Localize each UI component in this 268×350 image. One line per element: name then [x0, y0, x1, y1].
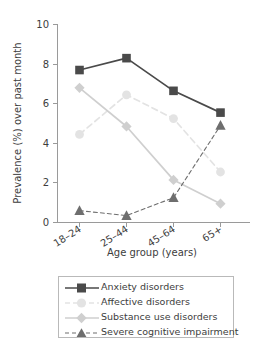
plot-area-wrapper: 10 8 6 4 2 0 18–24 25–44 45–64 65+ Preva…	[0, 0, 268, 262]
y-tick-label-0: 0	[43, 217, 49, 228]
legend-key-affective-circle-icon	[63, 295, 101, 309]
series-severe-cognitive-impairment	[74, 120, 225, 220]
legend-label-cognitive: Severe cognitive impairment	[101, 325, 238, 339]
x-tick-label-25-44: 25–44	[98, 223, 130, 248]
legend-item-substance: Substance use disorders	[59, 310, 233, 324]
data-point	[215, 199, 225, 209]
legend-key-anxiety-square-icon	[63, 280, 101, 294]
data-point	[169, 114, 178, 123]
data-point	[168, 192, 178, 202]
series-layer	[74, 54, 225, 220]
y-axis-title: Prevalence (%) over past month	[12, 42, 23, 203]
y-tick-label-10: 10	[36, 19, 49, 30]
x-axis-ticks	[80, 223, 221, 228]
series-substance-use-disorders	[74, 83, 225, 209]
legend-label-affective: Affective disorders	[101, 295, 190, 309]
data-point	[216, 108, 225, 117]
legend-label-anxiety: Anxiety disorders	[101, 280, 184, 294]
y-tick-label-4: 4	[43, 138, 49, 149]
data-point	[216, 168, 225, 177]
y-axis-ticks	[53, 25, 58, 223]
data-point	[215, 120, 225, 130]
legend-key-cognitive-triangle-icon	[63, 325, 101, 339]
legend-item-affective: Affective disorders	[59, 295, 233, 309]
data-point	[75, 130, 84, 139]
y-tick-label-8: 8	[43, 59, 49, 70]
legend-label-substance: Substance use disorders	[101, 310, 217, 324]
x-tick-label-18-24: 18–24	[51, 223, 83, 248]
legend-item-cognitive: Severe cognitive impairment	[59, 325, 233, 339]
data-point	[122, 54, 131, 63]
chart-legend: Anxiety disorders Affective disorders Su…	[58, 276, 234, 338]
data-point	[122, 90, 131, 99]
legend-key-substance-diamond-icon	[63, 310, 101, 324]
data-point	[75, 66, 84, 75]
line-chart-svg: 10 8 6 4 2 0 18–24 25–44 45–64 65+ Preva…	[0, 0, 268, 262]
series-anxiety-disorders	[75, 54, 225, 117]
data-point	[74, 205, 84, 215]
x-axis-title: Age group (years)	[107, 247, 197, 258]
x-tick-label-45-64: 45–64	[145, 223, 177, 248]
data-point	[169, 87, 178, 96]
y-tick-label-6: 6	[43, 98, 49, 109]
legend-item-anxiety: Anxiety disorders	[59, 280, 233, 294]
chart-figure: 10 8 6 4 2 0 18–24 25–44 45–64 65+ Preva…	[0, 0, 268, 350]
y-tick-label-2: 2	[43, 177, 49, 188]
